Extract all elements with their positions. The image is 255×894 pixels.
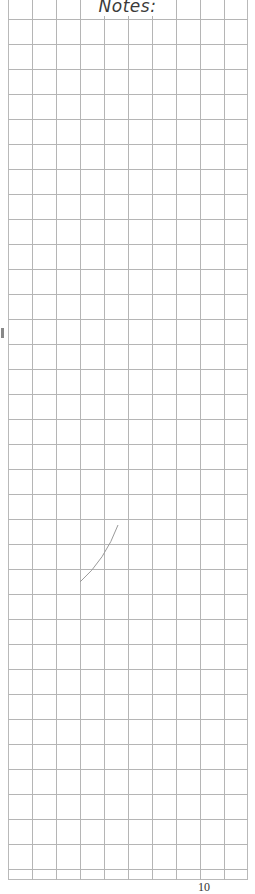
page-number: 10 xyxy=(198,880,210,894)
pencil-stroke xyxy=(0,0,255,894)
